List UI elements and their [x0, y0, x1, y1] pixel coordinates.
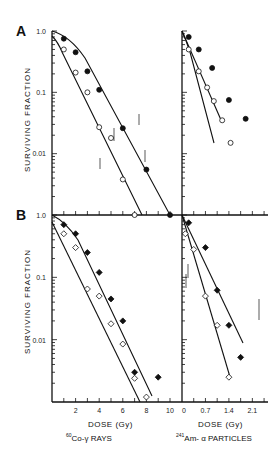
filled-diamond-marker — [73, 231, 79, 237]
fit-curve — [52, 215, 152, 396]
y-axis-label-a: SURVIVING FRACTION — [23, 55, 32, 185]
open-diamond-marker — [61, 231, 67, 237]
filled-circle-marker — [210, 65, 215, 70]
filled-circle-marker — [186, 34, 191, 39]
right-source-text: Am- α PARTICLES — [184, 434, 251, 443]
filled-circle-marker — [73, 50, 78, 55]
open-circle-marker — [211, 99, 216, 104]
filled-circle-marker — [168, 213, 173, 218]
x-tick-label: 10 — [166, 407, 174, 414]
filled-circle-marker — [144, 167, 149, 172]
right-x-axis-label: DOSE (Gy) — [198, 420, 243, 429]
filled-circle-marker — [97, 87, 102, 92]
y-tick-label: 0.01 — [32, 150, 46, 157]
y-tick-label: 0.1 — [36, 89, 46, 96]
filled-diamond-marker — [96, 269, 102, 275]
x-tick-label: 0 — [182, 407, 186, 414]
panel-label-b: B — [16, 207, 26, 223]
survival-curves-figure: 1.00.10.011.00.10.0124681000.71.42.1 — [0, 0, 280, 461]
open-circle-marker — [85, 90, 90, 95]
open-circle-marker — [186, 47, 191, 52]
open-circle-marker — [97, 125, 102, 130]
y-axis-label-b: SURVIVING FRACTION — [23, 237, 32, 367]
open-diamond-marker — [143, 394, 149, 400]
open-circle-marker — [73, 70, 78, 75]
open-circle-marker — [132, 213, 137, 218]
filled-diamond-marker — [132, 369, 138, 375]
open-diamond-marker — [226, 374, 232, 380]
x-tick-label: 2.1 — [247, 407, 257, 414]
x-tick-label: 0.7 — [201, 407, 211, 414]
open-circle-marker — [196, 69, 201, 74]
x-tick-label: 6 — [121, 407, 125, 414]
filled-diamond-marker — [155, 374, 161, 380]
open-diamond-marker — [120, 341, 126, 347]
x-tick-label: 2 — [74, 407, 78, 414]
filled-circle-marker — [196, 47, 201, 52]
open-diamond-marker — [132, 375, 138, 381]
x-tick-label: 1.4 — [224, 407, 234, 414]
open-circle-marker — [228, 140, 233, 145]
y-tick-label: 0.01 — [32, 337, 46, 344]
filled-diamond-marker — [120, 318, 126, 324]
open-diamond-marker — [108, 321, 114, 327]
fit-curve — [52, 31, 170, 215]
open-circle-marker — [109, 136, 114, 141]
y-tick-label: 1.0 — [36, 212, 46, 219]
x-tick-label: 8 — [144, 407, 148, 414]
open-circle-marker — [61, 47, 66, 52]
left-x-axis-label: DOSE (Gy) — [88, 420, 133, 429]
open-diamond-marker — [202, 293, 208, 299]
left-source-text: Co-γ RAYS — [72, 434, 112, 443]
x-tick-label: 4 — [97, 407, 101, 414]
fit-curve — [182, 215, 243, 343]
open-diamond-marker — [73, 245, 79, 251]
open-diamond-marker — [96, 293, 102, 299]
filled-circle-marker — [85, 69, 90, 74]
fit-curve — [52, 222, 140, 402]
panel-label-a: A — [16, 23, 26, 39]
filled-circle-marker — [61, 36, 66, 41]
y-tick-label: 0.1 — [36, 274, 46, 281]
right-source-label: 241Am- α PARTICLES — [176, 432, 252, 443]
filled-diamond-marker — [61, 222, 67, 228]
filled-circle-marker — [226, 97, 231, 102]
open-circle-marker — [120, 177, 125, 182]
left-source-label: 60Co-γ RAYS — [66, 432, 112, 443]
filled-diamond-marker — [202, 245, 208, 251]
filled-diamond-marker — [238, 354, 244, 360]
open-circle-marker — [220, 118, 225, 123]
filled-circle-marker — [120, 126, 125, 131]
filled-diamond-marker — [226, 322, 232, 328]
filled-diamond-marker — [108, 296, 114, 302]
y-tick-label: 1.0 — [36, 28, 46, 35]
filled-circle-marker — [243, 116, 248, 121]
open-circle-marker — [205, 85, 210, 90]
